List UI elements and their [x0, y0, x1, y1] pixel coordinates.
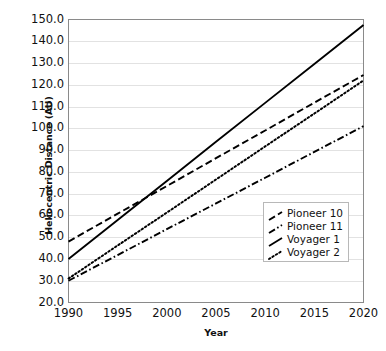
legend-label: Voyager 1 [287, 233, 340, 245]
legend-label: Voyager 2 [287, 246, 340, 258]
chart-legend: Pioneer 10Pioneer 11Voyager 1Voyager 2 [263, 202, 349, 262]
legend-entry: Voyager 1 [267, 232, 343, 245]
legend-line-sample-icon [267, 233, 284, 245]
legend-label: Pioneer 10 [287, 207, 343, 219]
chart-figure: Heliocentric Distance (AU) 20.030.040.05… [0, 0, 386, 351]
legend-entry: Pioneer 11 [267, 219, 343, 232]
legend-line-sample-icon [267, 246, 284, 258]
legend-entry: Voyager 2 [267, 245, 343, 258]
legend-line-sample-icon [267, 220, 284, 232]
legend-label: Pioneer 11 [287, 220, 343, 232]
legend-line-sample-icon [267, 207, 284, 219]
legend-entry: Pioneer 10 [267, 206, 343, 219]
plot-area [0, 0, 386, 351]
